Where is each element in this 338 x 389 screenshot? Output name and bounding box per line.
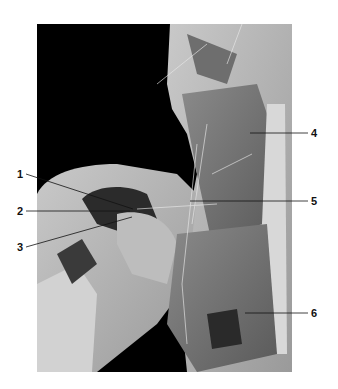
label-6: 6 bbox=[311, 307, 317, 319]
leader-line-1 bbox=[26, 174, 133, 209]
leader-lines bbox=[0, 0, 338, 389]
leader-line-3 bbox=[26, 217, 132, 247]
label-5: 5 bbox=[311, 195, 317, 207]
label-3: 3 bbox=[17, 241, 23, 253]
label-4: 4 bbox=[311, 127, 317, 139]
label-1: 1 bbox=[17, 168, 23, 180]
label-2: 2 bbox=[17, 205, 23, 217]
